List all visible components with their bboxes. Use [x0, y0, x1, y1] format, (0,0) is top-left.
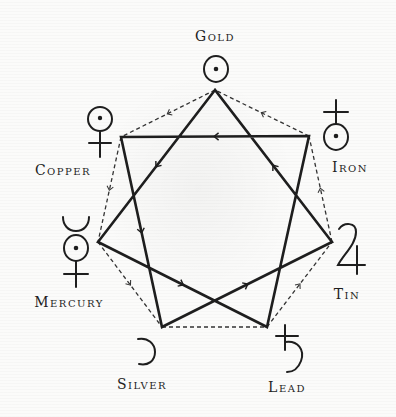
jupiter-symbol-icon [338, 224, 365, 274]
outer-heptagon-arrows [98, 90, 332, 327]
label-tin: Tin [334, 286, 361, 302]
label-gold: Gold [195, 28, 235, 44]
label-mercury: Mercury [34, 294, 104, 310]
heptagram-star [98, 90, 332, 327]
label-iron: Iron [332, 159, 368, 175]
saturn-symbol-icon [276, 325, 302, 372]
venus-symbol-icon [88, 107, 112, 157]
diagram-graphic [0, 0, 396, 417]
mercury-symbol-icon [63, 217, 89, 287]
label-lead: Lead [268, 379, 306, 395]
outer-heptagon-dashed [98, 90, 332, 327]
moon-symbol-icon [138, 339, 155, 365]
label-copper: Copper [35, 162, 91, 178]
heptagram-arrows [98, 90, 332, 327]
heptagram-diagram: Gold Copper Iron Mercury Tin Silver Lead [0, 0, 396, 417]
iron-symbol-icon [324, 100, 348, 150]
label-silver: Silver [117, 376, 167, 392]
sun-symbol-icon [204, 56, 228, 82]
